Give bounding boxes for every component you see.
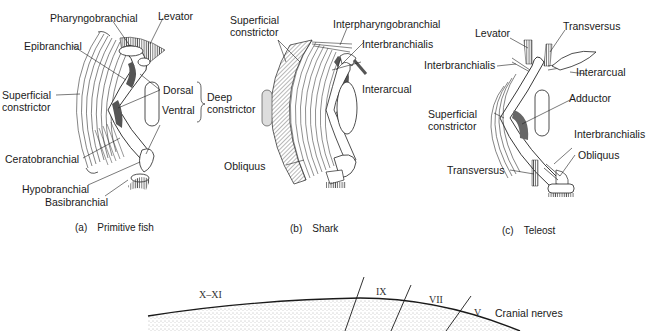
label-basibranchial-a: Basibranchial <box>45 196 108 208</box>
gill-slit <box>535 90 549 136</box>
label-pharyngobranchial-a: Pharyngobranchial <box>50 12 138 24</box>
cranial-nerves-title: Cranial nerves <box>495 307 563 319</box>
label-levator-c: Levator <box>475 27 510 39</box>
label-epibranchial-a: Epibranchial <box>24 40 82 52</box>
label-superficial-constrictor-c-line1: Superficial <box>428 108 477 120</box>
label-superficial-constrictor-a-line2: constrictor <box>2 101 50 113</box>
cranial-nerves-diagram <box>148 277 520 331</box>
label-hypobranchial-a: Hypobranchial <box>22 183 89 195</box>
label-superficial-constrictor-a-line1: Superficial <box>2 89 51 101</box>
label-obliquus-b: Obliquus <box>224 160 265 172</box>
panel-b-shark <box>262 28 366 188</box>
diagram-artwork <box>0 0 649 331</box>
label-dorsal-a: Dorsal <box>163 84 193 96</box>
gill-slit <box>337 82 357 134</box>
label-transversus-bottom-c: Transversus <box>447 164 504 176</box>
label-interbranchialis-b: Interbranchialis <box>362 38 433 50</box>
panel-c-teleost <box>491 30 596 197</box>
label-superficial-constrictor-b-line1: Superficial <box>230 14 279 26</box>
label-interarcual-b: Interarcual <box>362 83 412 95</box>
caption-b-letter: (b) <box>290 223 302 234</box>
gill-slit <box>145 82 159 126</box>
nerve-label-x-xi: X–XI <box>199 289 222 300</box>
label-interbranchialis-top-c: Interbranchialis <box>424 59 495 71</box>
label-superficial-constrictor-c-line2: constrictor <box>428 120 476 132</box>
caption-c-letter: (c) <box>502 225 514 236</box>
caption-b-text: Shark <box>312 223 338 234</box>
label-interpharyngobranchial-b: Interpharyngobranchial <box>333 18 440 30</box>
label-deep-constrictor-a-line2: constrictor <box>207 103 255 115</box>
label-interarcual-c: Interarcual <box>576 66 626 78</box>
caption-a-text: Primitive fish <box>97 222 154 233</box>
pharyngobranchial-bone <box>119 46 143 56</box>
label-superficial-constrictor-b-line2: constrictor <box>230 26 278 38</box>
label-ceratobranchial-a: Ceratobranchial <box>5 153 79 165</box>
label-interbranchialis-bottom-c: Interbranchialis <box>574 128 645 140</box>
label-levator-a: Levator <box>158 10 193 22</box>
caption-c: (c)Teleost <box>502 225 555 236</box>
caption-a-letter: (a) <box>75 222 87 233</box>
head-outline-stippled <box>148 298 520 331</box>
caption-c-text: Teleost <box>524 225 556 236</box>
label-deep-constrictor-a-line1: Deep <box>207 91 232 103</box>
caption-a: (a)Primitive fish <box>75 222 154 233</box>
caption-b: (b)Shark <box>290 223 338 234</box>
nerve-label-v: V <box>474 307 481 318</box>
nerve-label-vii: VII <box>429 294 443 305</box>
nerve-label-ix: IX <box>376 286 387 297</box>
label-transversus-top-c: Transversus <box>563 20 620 32</box>
label-obliquus-c: Obliquus <box>578 149 619 161</box>
label-adductor-c: Adductor <box>569 92 611 104</box>
label-ventral-a: Ventral <box>162 104 195 116</box>
